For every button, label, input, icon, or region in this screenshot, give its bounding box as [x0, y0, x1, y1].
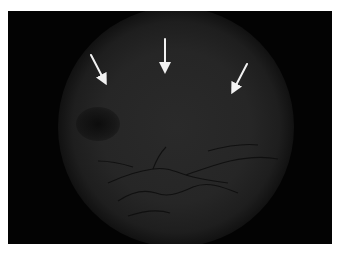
arrows [91, 39, 247, 89]
bottom-margin [0, 244, 342, 253]
annotation-overlay [8, 11, 332, 244]
left-arrow-icon [91, 55, 104, 80]
fundus-image-frame [8, 11, 332, 244]
blood-vessels [98, 144, 278, 216]
right-arrow-icon [234, 64, 247, 89]
